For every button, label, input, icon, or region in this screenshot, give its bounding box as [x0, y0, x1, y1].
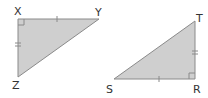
congruent-triangles-diagram: X Y Z T S R — [0, 0, 208, 98]
vertex-label-x: X — [14, 5, 22, 18]
triangle-tsr-shape — [114, 21, 195, 79]
vertex-label-y: Y — [94, 6, 102, 19]
triangle-xyz-shape — [18, 19, 99, 77]
vertex-label-r: R — [193, 83, 201, 96]
vertex-label-z: Z — [12, 79, 20, 92]
triangle-xyz: X Y Z — [12, 5, 102, 92]
vertex-label-s: S — [106, 83, 113, 96]
vertex-label-t: T — [195, 12, 203, 25]
triangle-tsr: T S R — [106, 12, 203, 96]
